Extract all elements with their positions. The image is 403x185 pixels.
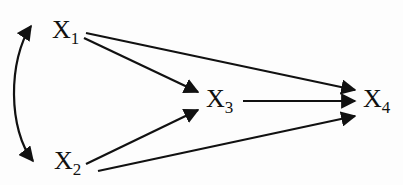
node-x3-subscript: 3: [225, 98, 234, 117]
node-x2-label: X: [54, 146, 73, 175]
edge-x1-x2-correlation: [14, 26, 33, 161]
edge-x2-x4: [98, 116, 355, 171]
edge-x1-x4: [86, 33, 355, 90]
node-x2-subscript: 2: [73, 160, 82, 179]
node-x4-subscript: 4: [382, 98, 391, 117]
node-x4-label: X: [363, 84, 382, 113]
node-x3-label: X: [206, 84, 225, 113]
node-x1-label: X: [52, 15, 71, 44]
node-x2: X2: [54, 148, 81, 178]
edge-x1-x3: [84, 38, 198, 92]
node-x3: X3: [206, 86, 233, 116]
node-x1: X1: [52, 17, 79, 47]
node-x1-subscript: 1: [71, 29, 80, 48]
edge-x2-x3: [86, 110, 198, 164]
path-diagram: X1 X2 X3 X4: [0, 0, 403, 185]
node-x4: X4: [363, 86, 390, 116]
